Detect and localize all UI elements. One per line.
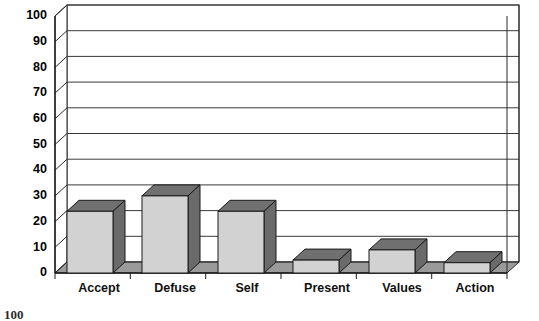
y-tick-10: 10: [33, 240, 47, 254]
y-tick-70: 70: [33, 85, 47, 99]
x-label-present: Present: [304, 281, 351, 295]
y-tick-40: 40: [33, 162, 47, 176]
x-label-self: Self: [236, 281, 260, 295]
x-label-action: Action: [456, 281, 495, 295]
y-tick-90: 90: [33, 34, 47, 48]
x-label-accept: Accept: [78, 281, 121, 295]
bar-chart: 100 90 80 70 60 50 40 30 20 10 0 Accept …: [0, 0, 539, 321]
bar-accept[interactable]: [67, 200, 125, 273]
bar-present[interactable]: [293, 249, 351, 273]
bar-self[interactable]: [218, 200, 276, 273]
y-tick-100: 100: [26, 8, 47, 22]
y-tick-20: 20: [33, 214, 47, 228]
cut-off-footer-text: 100: [4, 311, 124, 321]
bar-values[interactable]: [369, 239, 427, 273]
y-tick-60: 60: [33, 111, 47, 125]
cut-off-footer-value: 100: [4, 311, 124, 321]
y-tick-0: 0: [40, 265, 47, 279]
y-tick-50: 50: [33, 137, 47, 151]
x-label-defuse: Defuse: [154, 281, 196, 295]
chart-svg: 100 90 80 70 60 50 40 30 20 10 0 Accept …: [0, 0, 539, 321]
bar-defuse[interactable]: [142, 185, 200, 273]
y-tick-30: 30: [33, 188, 47, 202]
x-label-values: Values: [382, 281, 422, 295]
bar-action[interactable]: [444, 252, 502, 273]
plot-area: [55, 5, 519, 279]
y-tick-80: 80: [33, 60, 47, 74]
